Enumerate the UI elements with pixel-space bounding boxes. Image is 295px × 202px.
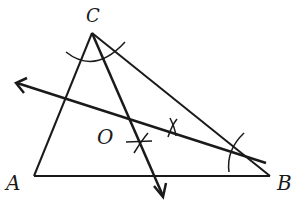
cross-mark-c-1 — [126, 141, 152, 142]
geometry-diagram: C O A B — [0, 0, 295, 202]
bisector-from-b — [16, 78, 266, 163]
label-c: C — [86, 5, 100, 26]
bisector-from-c — [92, 33, 166, 197]
label-b: B — [276, 171, 292, 195]
label-o: O — [97, 125, 113, 149]
label-a: A — [4, 171, 20, 195]
